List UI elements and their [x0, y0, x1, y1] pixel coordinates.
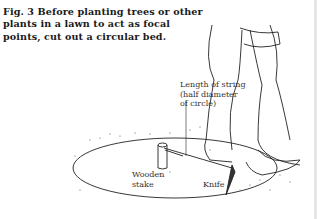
stake-label: Wooden stake: [132, 170, 164, 189]
knife-label: Knife: [203, 180, 224, 190]
string-label: Length of string (half diameter of circl…: [180, 80, 246, 109]
page-edge: [314, 0, 317, 219]
string-line: [164, 148, 232, 168]
circular-bed-outline: [73, 138, 277, 198]
